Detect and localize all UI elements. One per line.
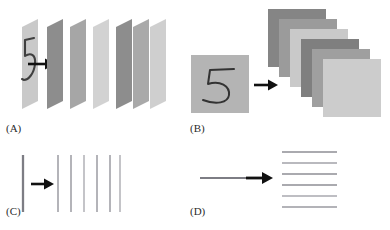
panel-d-arrow-icon xyxy=(246,172,273,184)
panel-b-label: (B) xyxy=(190,122,205,134)
panel-b-input-image xyxy=(191,55,249,113)
panel-a-output-stack xyxy=(47,19,166,109)
panel-c-output-lines xyxy=(58,155,120,212)
panel-b-output-stack xyxy=(268,9,381,117)
panel-c xyxy=(0,140,190,230)
panel-c-graphic xyxy=(0,140,190,230)
panel-d-graphic xyxy=(186,140,390,230)
feature-plane-4 xyxy=(116,19,132,109)
figure-canvas: (A) xyxy=(0,0,390,230)
feature-map-6 xyxy=(323,59,381,117)
panel-d-output-lines xyxy=(282,152,337,207)
panel-d-label: (D) xyxy=(190,205,205,217)
panel-a-graphic xyxy=(0,0,190,126)
panel-a xyxy=(0,0,190,126)
panel-c-arrow-icon xyxy=(31,179,54,190)
panel-a-label: (A) xyxy=(6,122,21,134)
panel-d xyxy=(186,140,390,230)
panel-c-label: (C) xyxy=(6,205,21,217)
panel-b-graphic xyxy=(186,0,390,126)
panel-b xyxy=(186,0,390,126)
panel-b-arrow-icon xyxy=(254,80,278,91)
feature-plane-6 xyxy=(150,19,166,109)
feature-plane-1 xyxy=(47,19,63,109)
feature-plane-2 xyxy=(70,19,86,109)
feature-plane-3 xyxy=(93,19,109,109)
feature-plane-5 xyxy=(133,19,149,109)
